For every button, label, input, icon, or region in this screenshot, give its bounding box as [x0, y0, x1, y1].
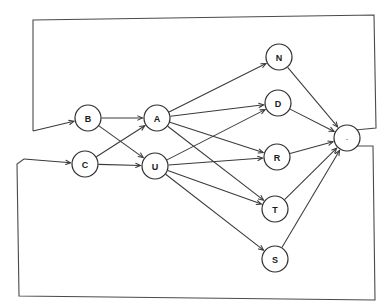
- node-n[interactable]: N: [266, 44, 292, 70]
- node-d[interactable]: D: [265, 90, 291, 116]
- node-c[interactable]: C: [72, 151, 98, 177]
- node-label-s: S: [272, 255, 278, 265]
- edge-A-to-N: [169, 63, 266, 111]
- node-a[interactable]: A: [144, 105, 170, 131]
- node-label-c: C: [82, 160, 89, 170]
- edge-C-to-U: [98, 164, 140, 165]
- edge-U-to-R: [168, 158, 262, 165]
- edge-D-to-END: [290, 109, 334, 131]
- boundary-box-bottom-box: [17, 146, 375, 300]
- edge-A-to-R: [170, 122, 263, 152]
- node-end[interactable]: -: [334, 125, 360, 151]
- node-u[interactable]: U: [142, 153, 168, 179]
- edge-A-to-D: [170, 105, 263, 117]
- edge-T-to-END: [285, 148, 337, 199]
- diagram-canvas: BCAUNDRTS-: [0, 0, 390, 306]
- node-label-n: N: [276, 53, 283, 63]
- nodes-layer: BCAUNDRTS-: [72, 44, 360, 272]
- node-label-a: A: [154, 114, 161, 124]
- boundary-entry-top-box: [33, 121, 74, 131]
- node-label-t: T: [272, 205, 278, 215]
- edge-U-to-S: [166, 174, 264, 250]
- node-r[interactable]: R: [264, 144, 290, 170]
- node-label-b: B: [85, 114, 92, 124]
- node-s[interactable]: S: [262, 246, 288, 272]
- edge-U-to-D: [167, 110, 265, 160]
- node-label-d: D: [275, 99, 282, 109]
- node-label-u: U: [152, 162, 159, 172]
- edges-layer: [96, 63, 339, 250]
- boundary-entry-bottom-box: [24, 159, 71, 163]
- graph-svg: BCAUNDRTS-: [0, 0, 390, 306]
- edge-C-to-A: [96, 126, 144, 157]
- edge-S-to-END: [282, 150, 340, 247]
- edge-R-to-END: [290, 142, 333, 154]
- node-t[interactable]: T: [262, 196, 288, 222]
- edge-N-to-END: [288, 67, 338, 127]
- boundary-boxes-layer: [17, 15, 376, 300]
- node-b[interactable]: B: [75, 105, 101, 131]
- node-label-r: R: [274, 153, 281, 163]
